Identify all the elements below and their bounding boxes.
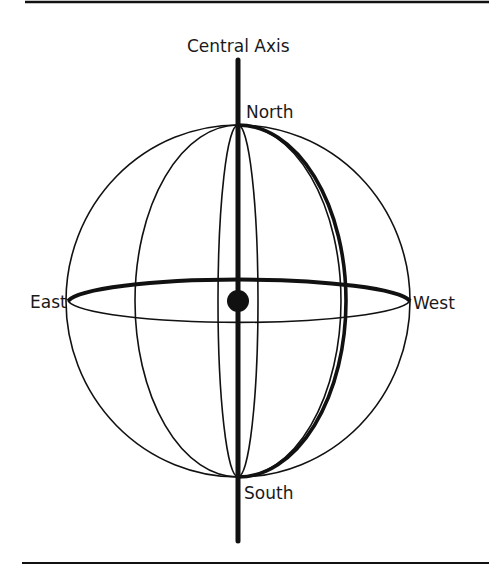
west-label: West: [413, 293, 455, 313]
south-label: South: [244, 483, 293, 503]
north-label: North: [246, 102, 294, 122]
sphere-diagram: Central Axis North South East West: [0, 0, 489, 570]
central-axis-label: Central Axis: [187, 36, 290, 56]
meridian-highlight: [238, 125, 346, 477]
east-label: East: [30, 292, 67, 312]
center-point: [227, 290, 249, 312]
